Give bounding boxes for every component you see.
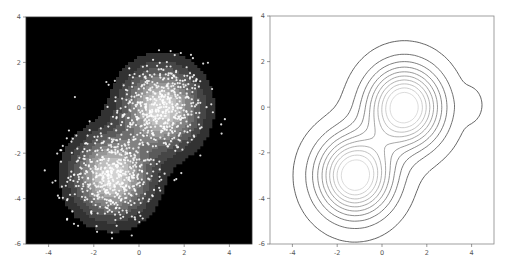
y-tick-label: 4 (261, 12, 265, 20)
contour-line (341, 92, 418, 190)
y-tick-label: -4 (15, 195, 21, 203)
left-plot-canvas: -4-2024420-2-4-6 (0, 0, 255, 267)
contour-line (293, 41, 482, 242)
x-tick-label: -4 (289, 249, 295, 257)
y-tick-label: 4 (17, 13, 21, 21)
x-tick-label: 4 (470, 249, 474, 257)
y-tick-label: 2 (17, 59, 21, 67)
x-tick-label: 4 (227, 249, 231, 257)
y-tick-label: -2 (259, 149, 265, 157)
contour-line (337, 88, 422, 195)
y-tick-label: 0 (261, 104, 265, 112)
x-tick-label: -4 (45, 249, 51, 257)
x-tick-label: 0 (137, 249, 141, 257)
y-tick-label: -4 (259, 195, 265, 203)
right-kde-contour-plot: -4-2024420-2-4-6 (255, 0, 510, 267)
x-tick-label: 2 (425, 249, 429, 257)
contour-line (333, 84, 426, 199)
y-tick-label: -2 (15, 150, 21, 158)
x-tick-label: -2 (91, 249, 97, 257)
kde-contours (293, 41, 482, 242)
y-tick-label: 2 (261, 58, 265, 66)
y-tick-label: -6 (259, 240, 265, 248)
x-tick-label: -2 (334, 249, 340, 257)
left-kde-scatter-plot: -4-2024420-2-4-6 (0, 0, 255, 267)
y-tick-label: -6 (15, 240, 21, 248)
contour-line (313, 62, 447, 222)
contour-line (326, 76, 434, 207)
x-tick-label: 2 (182, 249, 186, 257)
y-tick-label: 0 (17, 104, 21, 112)
right-plot-canvas: -4-2024420-2-4-6 (255, 0, 510, 267)
plot-frame (270, 16, 494, 244)
contour-line (322, 72, 437, 211)
x-tick-label: 0 (380, 249, 384, 257)
